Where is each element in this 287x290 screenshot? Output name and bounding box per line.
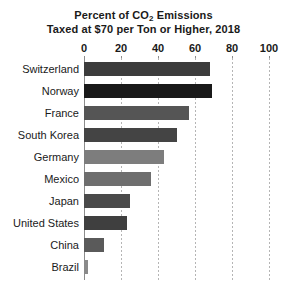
chart-title-subscript: 2: [149, 14, 154, 23]
x-axis-tick-label: 100: [260, 42, 278, 54]
category-label: Norway: [0, 80, 79, 102]
bar-chart: Percent of CO2 Emissions Taxed at $70 pe…: [0, 0, 287, 290]
bar: [84, 216, 127, 230]
bar-row: [84, 234, 269, 256]
bar: [84, 62, 210, 76]
bar: [84, 128, 177, 142]
bar-row: [84, 80, 269, 102]
bar-row: [84, 124, 269, 146]
category-label: South Korea: [0, 124, 79, 146]
chart-title-line-2: Taxed at $70 per Ton or Higher, 2018: [0, 23, 287, 36]
x-axis-tick-label: 40: [152, 42, 164, 54]
bar: [84, 172, 151, 186]
bar-row: [84, 256, 269, 278]
x-axis-tick-label: 0: [81, 42, 87, 54]
bar-row: [84, 168, 269, 190]
category-label: Switzerland: [0, 58, 79, 80]
category-label: Brazil: [0, 256, 79, 278]
x-axis-tick-labels: 020406080100: [84, 42, 269, 56]
bar-row: [84, 190, 269, 212]
bar-row: [84, 212, 269, 234]
category-label: France: [0, 102, 79, 124]
category-label: Japan: [0, 190, 79, 212]
bar-row: [84, 58, 269, 80]
bar-row: [84, 146, 269, 168]
category-label: China: [0, 234, 79, 256]
category-label: Mexico: [0, 168, 79, 190]
gridline: [269, 58, 270, 280]
bar-row: [84, 102, 269, 124]
bar: [84, 238, 104, 252]
bar: [84, 194, 130, 208]
chart-title-line-1: Percent of CO2 Emissions: [0, 9, 287, 23]
bar: [84, 84, 212, 98]
bar: [84, 260, 88, 274]
category-label: Germany: [0, 146, 79, 168]
x-axis-tick-label: 60: [189, 42, 201, 54]
chart-title-line-1-pre: Percent of CO: [74, 9, 149, 21]
bar: [84, 106, 189, 120]
category-label: United States: [0, 212, 79, 234]
plot-area: [84, 58, 269, 280]
bar: [84, 150, 164, 164]
chart-title: Percent of CO2 Emissions Taxed at $70 pe…: [0, 9, 287, 36]
chart-title-line-1-post: Emissions: [154, 9, 213, 21]
x-axis-tick-label: 80: [226, 42, 238, 54]
x-axis-tick-label: 20: [115, 42, 127, 54]
